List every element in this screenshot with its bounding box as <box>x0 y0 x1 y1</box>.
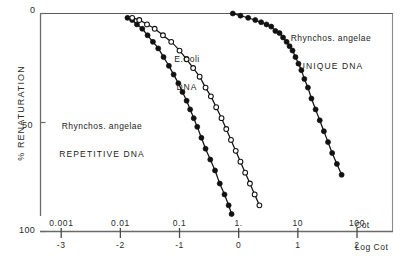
x-bottom-label-2: -1 <box>168 241 192 250</box>
data-point <box>238 13 243 18</box>
series-label-repetitive-dna: Rhynchos. angelae REPETITIVE DNA <box>42 104 162 177</box>
data-point <box>130 15 135 20</box>
data-point <box>238 159 243 164</box>
data-point <box>208 157 213 162</box>
data-point <box>334 161 339 166</box>
data-point <box>140 26 145 31</box>
data-point <box>257 203 262 208</box>
y-tick-label-100: 100 <box>19 226 35 236</box>
data-point <box>326 140 331 145</box>
data-point <box>253 18 258 23</box>
series-label-ecoli-line1: E.Coli <box>158 55 216 64</box>
data-point <box>199 135 204 140</box>
data-point <box>217 181 222 186</box>
x-bottom-label-4: 1 <box>286 241 310 250</box>
x-top-label-3: 1. <box>227 219 251 228</box>
data-point <box>313 107 318 112</box>
data-point <box>222 192 227 197</box>
x-axis-title-log-cot: Log Cot <box>355 243 388 252</box>
data-point <box>252 192 257 197</box>
data-point <box>150 39 155 44</box>
series-label-unique-line2: UNIQUE DNA <box>272 62 390 71</box>
data-point <box>339 172 344 177</box>
series-label-repetitive-line2: REPETITIVE DNA <box>42 150 162 159</box>
data-point <box>230 11 235 16</box>
data-point <box>137 18 142 23</box>
x-bottom-label-3: 0 <box>227 241 251 250</box>
series-label-unique-line1: Rhynchos. angelae <box>272 34 390 43</box>
series-label-repetitive-line1: Rhynchos. angelae <box>42 122 162 131</box>
cot-curve-figure: % RENATURATION 0 50 100 0.0010.010.11.10… <box>0 0 420 263</box>
data-point <box>195 124 200 129</box>
x-top-label-4: 10 <box>286 219 310 228</box>
x-bottom-label-0: -3 <box>49 241 73 250</box>
data-point <box>233 148 238 153</box>
data-point <box>125 15 130 20</box>
y-axis-title: % RENATURATION <box>16 58 26 168</box>
x-top-label-2: 0.1 <box>168 219 192 228</box>
data-point <box>213 168 218 173</box>
x-axis-title-cot: Cot <box>355 221 370 230</box>
data-point <box>226 203 231 208</box>
data-point <box>243 170 248 175</box>
x-bottom-label-1: -2 <box>108 241 132 250</box>
series-label-unique-dna: Rhynchos. angelae UNIQUE DNA <box>272 16 390 89</box>
data-point <box>264 22 269 27</box>
data-point <box>145 22 150 27</box>
x-axis-ticks <box>61 228 357 238</box>
x-top-label-0: 0.001 <box>49 219 73 228</box>
data-point <box>309 96 314 101</box>
data-point <box>203 146 208 151</box>
data-point <box>224 127 229 132</box>
data-point <box>145 33 150 38</box>
x-top-label-1: 0.01 <box>108 219 132 228</box>
data-point <box>229 212 234 217</box>
data-point <box>246 15 251 20</box>
data-point <box>259 20 264 25</box>
data-point <box>248 181 253 186</box>
data-point <box>219 116 224 121</box>
data-point <box>229 138 234 143</box>
series-label-ecoli-line2: DNA <box>158 83 216 92</box>
series-label-ecoli-dna: E.Coli DNA <box>158 37 216 110</box>
data-point <box>152 26 157 31</box>
data-point <box>317 118 322 123</box>
data-point <box>330 151 335 156</box>
data-point <box>191 116 196 121</box>
y-tick-label-0: 0 <box>30 6 35 16</box>
y-tick-label-50: 50 <box>22 121 33 131</box>
data-point <box>321 129 326 134</box>
